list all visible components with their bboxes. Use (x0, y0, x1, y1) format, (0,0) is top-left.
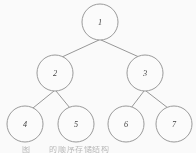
node-label-1: 1 (98, 18, 102, 27)
tree-diagram-canvas: 1234567 (0, 0, 196, 153)
tree-edge-n3-n7 (146, 91, 168, 108)
node-label-4: 4 (23, 120, 27, 129)
tree-node-4[interactable]: 4 (7, 106, 43, 142)
tree-node-3[interactable]: 3 (127, 55, 163, 91)
tree-nodes-group: 1234567 (7, 4, 192, 142)
node-label-3: 3 (142, 69, 147, 78)
figure-caption: 图 的顺序存储结构 (0, 146, 196, 153)
figure-caption-text: 图 的顺序存储结构 (0, 146, 196, 153)
tree-node-1[interactable]: 1 (82, 4, 118, 40)
tree-edge-n2-n5 (56, 91, 70, 108)
node-label-5: 5 (74, 120, 78, 129)
tree-edge-n2-n4 (33, 91, 54, 108)
binary-tree-figure: 1234567 图 的顺序存储结构 (0, 0, 196, 153)
tree-node-6[interactable]: 6 (108, 106, 144, 142)
tree-edge-n3-n6 (131, 91, 144, 108)
tree-edge-n1-n3 (101, 40, 139, 57)
tree-node-7[interactable]: 7 (156, 106, 192, 142)
tree-node-5[interactable]: 5 (58, 106, 94, 142)
node-label-2: 2 (53, 69, 57, 78)
tree-node-2[interactable]: 2 (37, 55, 73, 91)
tree-edge-n1-n2 (62, 40, 99, 57)
